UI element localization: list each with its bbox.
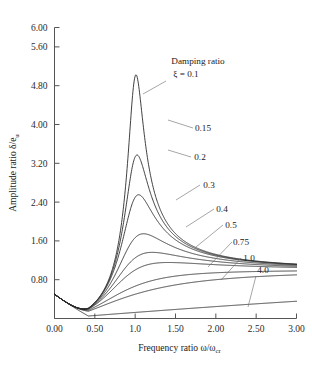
x-tick-label: 2.50: [248, 324, 265, 334]
annotation-zeta-0p2: 0.2: [194, 152, 206, 162]
y-tick-label: 4.00: [31, 120, 48, 130]
y-tick-label: 3.20: [31, 159, 48, 169]
leader-line-zeta-0p2: [168, 150, 191, 157]
amplitude-frequency-chart: 0.801.602.403.204.004.805.606.000.000.50…: [0, 0, 312, 382]
leader-line-zeta-4p0: [248, 276, 256, 307]
annotation-zeta-0p75: 0.75: [233, 237, 249, 247]
y-tick-label: 6.00: [31, 23, 48, 33]
curve-zeta-0p15: [55, 155, 297, 309]
annotation-zeta-4p0: 4.0: [257, 265, 269, 275]
chart-svg: 0.801.602.403.204.004.805.606.000.000.50…: [0, 0, 312, 382]
y-axis-title: Amplitude ratio δ/eu: [8, 134, 20, 212]
annotation-zeta-0p3: 0.3: [203, 180, 215, 190]
annotation-damping-ratio-title: Damping ratio: [171, 56, 225, 66]
leader-line-zeta-0p15: [168, 120, 193, 128]
leader-line-zeta-0p1: [143, 81, 166, 94]
curve-zeta-0p4: [55, 252, 297, 309]
y-tick-label: 4.80: [31, 81, 48, 91]
annotation-zeta-0p5: 0.5: [225, 220, 237, 230]
curve-zeta-0p2: [55, 195, 297, 309]
annotation-zeta-1p0: 1.0: [243, 253, 255, 263]
x-axis-title: Frequency ratio ω/ωcr: [138, 343, 221, 355]
annotation-zeta-0p1: ξ = 0.1: [173, 69, 199, 79]
x-tick-label: 3.00: [288, 324, 305, 334]
x-tick-label: 1.50: [167, 324, 184, 334]
x-tick-label: 2.00: [208, 324, 225, 334]
leader-line-zeta-0p4: [186, 209, 214, 227]
y-tick-label: 5.60: [31, 42, 48, 52]
leader-line-zeta-0p5: [196, 225, 223, 247]
y-tick-label: 1.60: [31, 236, 48, 246]
annotation-zeta-0p4: 0.4: [216, 204, 228, 214]
curve-zeta-4: [55, 294, 297, 316]
y-tick-label: 2.40: [31, 198, 48, 208]
y-tick-label: 0.80: [31, 275, 48, 285]
x-tick-label: 0.00: [46, 324, 63, 334]
x-tick-label: 1.0: [129, 324, 141, 334]
leader-line-zeta-0p3: [176, 185, 200, 200]
x-tick-label: 0.50: [87, 324, 104, 334]
leader-line-zeta-1p0: [221, 258, 241, 280]
annotation-zeta-0p15: 0.15: [195, 123, 211, 133]
leader-line-zeta-0p75: [208, 242, 232, 267]
